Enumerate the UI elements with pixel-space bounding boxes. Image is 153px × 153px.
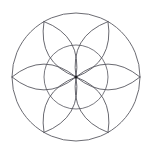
rosette-figure — [0, 0, 153, 153]
center-point — [75, 76, 78, 79]
figure-canvas — [0, 0, 153, 153]
